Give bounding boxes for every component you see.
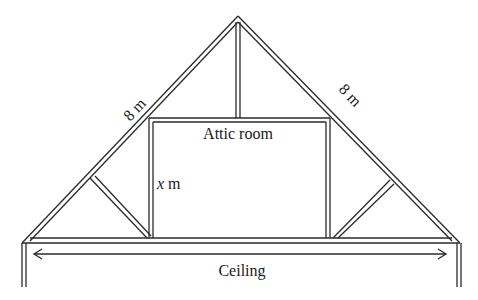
right-rafter-length-label: 8 m: [336, 80, 366, 110]
attic-room-label: Attic room: [203, 125, 273, 142]
ceiling-label: Ceiling: [218, 262, 265, 280]
room-height-unit: m: [164, 175, 181, 192]
right-web-brace: [333, 180, 394, 238]
right-wall-post: [457, 243, 461, 287]
ceiling-joist: [22, 238, 460, 243]
room-height-label: x m: [156, 175, 181, 192]
king-post: [236, 22, 240, 118]
left-wall-post: [22, 243, 26, 287]
roof-truss-diagram: 8 m 8 m Attic room x m Ceiling: [0, 0, 478, 300]
left-web-brace: [90, 176, 151, 238]
room-height-variable: x: [156, 175, 164, 192]
ceiling-dimension-arrow: [34, 249, 446, 259]
